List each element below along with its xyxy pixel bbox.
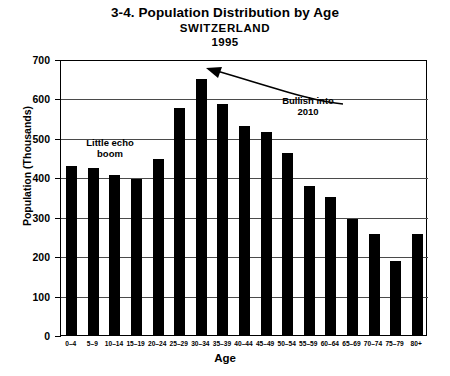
y-axis-tick: [55, 297, 61, 298]
bar: [390, 261, 401, 335]
bar: [282, 153, 293, 335]
bar: [239, 126, 250, 335]
bar: [325, 197, 336, 335]
bar: [412, 234, 423, 335]
y-axis-tick: [55, 218, 61, 219]
chart-subtitle: SWITZERLAND: [0, 21, 450, 35]
y-axis-tick: [55, 139, 61, 140]
annotation-little-echo-boom: Little echo boom: [70, 137, 150, 159]
y-axis-tick-label: 200: [4, 252, 50, 262]
y-axis-tick-label: 600: [4, 94, 50, 104]
y-axis-tick-label: 700: [4, 55, 50, 65]
y-axis-tick: [55, 336, 61, 337]
x-axis-title: Age: [0, 352, 450, 364]
y-axis-tick-label: 100: [4, 292, 50, 302]
y-axis-tick: [55, 257, 61, 258]
y-axis-tick-label: 300: [4, 213, 50, 223]
bar: [369, 234, 380, 335]
bar: [174, 108, 185, 335]
bar: [109, 175, 120, 335]
population-bar-chart: 3-4. Population Distribution by Age SWIT…: [0, 0, 450, 376]
y-axis-tick-label: 400: [4, 173, 50, 183]
y-axis-tick: [55, 60, 61, 61]
chart-title-block: 3-4. Population Distribution by Age SWIT…: [0, 5, 450, 49]
bar: [304, 186, 315, 335]
y-axis-tick: [55, 99, 61, 100]
y-axis-tick-label: 0: [4, 331, 50, 341]
x-axis-tick-label: 80+: [398, 340, 434, 347]
bar: [153, 159, 164, 335]
bar: [66, 166, 77, 335]
chart-year: 1995: [0, 35, 450, 49]
bar: [131, 179, 142, 335]
bar: [88, 168, 99, 335]
bar: [347, 219, 358, 335]
y-axis-tick: [55, 178, 61, 179]
bar: [217, 104, 228, 335]
bar: [261, 132, 272, 335]
page-title: 3-4. Population Distribution by Age: [0, 5, 450, 21]
y-axis-tick-label: 500: [4, 134, 50, 144]
curved-arrow-icon: [195, 58, 345, 118]
